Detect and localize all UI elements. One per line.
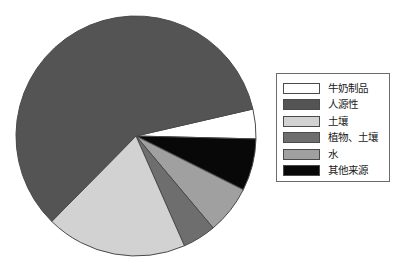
legend-item-milk-products[interactable]: 牛奶制品 [283,80,384,96]
legend-item-human-source[interactable]: 人源性 [283,97,384,113]
legend-swatch-soil [283,116,320,127]
legend-label-milk-products: 牛奶制品 [328,82,368,95]
legend-label-plant-soil: 植物、土壤 [328,131,378,144]
legend-item-plant-soil[interactable]: 植物、土壤 [283,130,384,146]
legend-label-other-sources: 其他来源 [328,164,368,177]
legend-swatch-other-sources [283,165,320,176]
legend-item-other-sources[interactable]: 其他来源 [283,163,384,179]
legend-swatch-water [283,149,320,160]
legend-swatch-milk-products [283,83,320,94]
chart-legend: 牛奶制品 人源性 土壤 植物、土壤 水 其他来源 [276,73,390,182]
legend-label-water: 水 [328,148,338,161]
legend-item-soil[interactable]: 土壤 [283,113,384,129]
legend-item-water[interactable]: 水 [283,146,384,162]
legend-label-human-source: 人源性 [328,98,358,111]
legend-swatch-plant-soil [283,132,320,143]
pie-chart-figure: 牛奶制品 人源性 土壤 植物、土壤 水 其他来源 [0,0,401,265]
pie-slice-group [16,16,256,256]
legend-swatch-human-source [283,99,320,110]
legend-label-soil: 土壤 [328,115,348,128]
